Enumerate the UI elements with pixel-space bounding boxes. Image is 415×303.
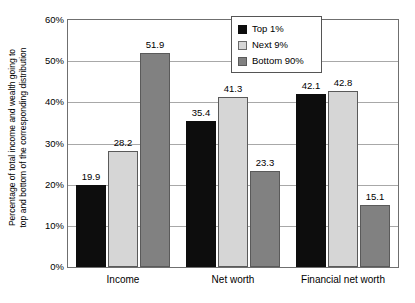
x-tick-label-net-worth: Net worth <box>178 274 288 286</box>
bar <box>360 205 390 267</box>
y-tick-label-10: 10% <box>20 221 64 231</box>
legend-swatch-icon-next-9 <box>238 41 247 50</box>
legend-swatch-icon-top-1 <box>238 25 247 34</box>
bar-value-label: 35.4 <box>180 108 222 118</box>
bar-value-label: 23.3 <box>244 158 286 168</box>
bar <box>76 185 106 267</box>
legend-item-bottom-90: Bottom 90% <box>238 53 321 69</box>
bar-value-label: 41.3 <box>212 84 254 94</box>
bar <box>108 151 138 267</box>
bar-value-label: 51.9 <box>134 40 176 50</box>
y-axis-title-line-2: top and bottom of the corresponding dist… <box>17 47 28 227</box>
bar-value-label: 19.9 <box>70 172 112 182</box>
bar-chart: Percentage of total income and wealth go… <box>0 0 415 303</box>
y-tick-label-40: 40% <box>20 97 64 107</box>
legend-item-top-1: Top 1% <box>238 21 321 37</box>
legend-label-top-1: Top 1% <box>252 24 284 34</box>
y-axis-title-line-1: Percentage of total income and wealth go… <box>7 47 18 227</box>
y-tick-label-0: 0% <box>20 262 64 272</box>
legend-swatch-icon-bottom-90 <box>238 57 247 66</box>
legend-item-next-9: Next 9% <box>238 37 321 53</box>
legend-label-bottom-90: Bottom 90% <box>252 56 304 66</box>
bar <box>140 53 170 267</box>
bar <box>186 121 216 267</box>
bar <box>328 91 358 267</box>
y-tick-label-60: 60% <box>20 15 64 25</box>
legend: Top 1% Next 9% Bottom 90% <box>231 16 322 73</box>
x-tick-label-income: Income <box>68 274 178 286</box>
bar <box>218 97 248 267</box>
y-tick-label-30: 30% <box>20 139 64 149</box>
bar-value-label: 42.8 <box>322 78 364 88</box>
y-tick-label-50: 50% <box>20 56 64 66</box>
bar-value-label: 28.2 <box>102 138 144 148</box>
y-axis-title: Percentage of total income and wealth go… <box>0 0 34 275</box>
x-tick-label-financial-net-worth: Financial net worth <box>288 274 398 286</box>
bar <box>250 171 280 267</box>
y-tick-label-20: 20% <box>20 180 64 190</box>
legend-label-next-9: Next 9% <box>252 40 288 50</box>
bar-value-label: 15.1 <box>354 192 396 202</box>
bar <box>296 94 326 267</box>
